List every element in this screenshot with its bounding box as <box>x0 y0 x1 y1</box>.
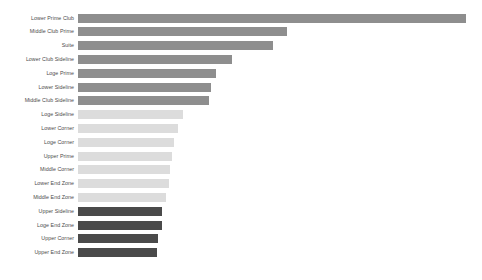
bar <box>78 83 211 92</box>
bar <box>78 207 162 216</box>
bar-category-label: Suite <box>0 42 74 49</box>
bar-row: Upper Prime <box>0 149 482 163</box>
bar-category-label: Middle Club Sideline <box>0 97 74 104</box>
bar <box>78 27 287 36</box>
bar-category-label: Middle Club Prime <box>0 28 74 35</box>
bar-fill <box>78 138 174 147</box>
bar-row: Lower Club Sideline <box>0 52 482 66</box>
bar <box>78 110 183 119</box>
bar-row: Lower Sideline <box>0 80 482 94</box>
bar-fill <box>78 193 166 202</box>
bar-category-label: Upper Corner <box>0 235 74 242</box>
bar <box>78 152 172 161</box>
bar-row: Upper Sideline <box>0 204 482 218</box>
bar <box>78 69 216 78</box>
bar-row: Suite <box>0 39 482 53</box>
bar-category-label: Lower Sideline <box>0 84 74 91</box>
bar-row: Upper Corner <box>0 232 482 246</box>
bar-fill <box>78 152 172 161</box>
bar-fill <box>78 110 183 119</box>
bar-fill <box>78 55 232 64</box>
bar-fill <box>78 69 216 78</box>
bar-fill <box>78 248 157 257</box>
bar-fill <box>78 207 162 216</box>
bar-category-label: Upper End Zone <box>0 249 74 256</box>
bar-row: Upper End Zone <box>0 246 482 260</box>
bar-fill <box>78 179 169 188</box>
bar-category-label: Upper Sideline <box>0 208 74 215</box>
bar-category-label: Loge Prime <box>0 70 74 77</box>
bar-category-label: Lower Club Sideline <box>0 56 74 63</box>
bar-row: Middle Club Prime <box>0 25 482 39</box>
bar-row: Loge Corner <box>0 135 482 149</box>
bar-fill <box>78 96 209 105</box>
bar <box>78 193 166 202</box>
bar-category-label: Middle Corner <box>0 166 74 173</box>
bar-fill <box>78 27 287 36</box>
bar <box>78 138 174 147</box>
bar <box>78 124 178 133</box>
bar-category-label: Middle End Zone <box>0 194 74 201</box>
bar-category-label: Lower End Zone <box>0 180 74 187</box>
bar <box>78 221 162 230</box>
bar-fill <box>78 83 211 92</box>
bar-category-label: Loge Corner <box>0 139 74 146</box>
bar-fill <box>78 165 170 174</box>
bar-category-label: Loge End Zone <box>0 222 74 229</box>
chart-plot-area: Lower Prime ClubMiddle Club PrimeSuiteLo… <box>0 0 482 280</box>
bar-category-label: Upper Prime <box>0 153 74 160</box>
bar <box>78 55 232 64</box>
bar-category-label: Lower Prime Club <box>0 15 74 22</box>
bar-category-label: Lower Corner <box>0 125 74 132</box>
bar-row: Middle End Zone <box>0 190 482 204</box>
bar-row: Loge End Zone <box>0 218 482 232</box>
bar <box>78 165 170 174</box>
bar <box>78 96 209 105</box>
bar <box>78 14 466 23</box>
bar-row: Loge Prime <box>0 66 482 80</box>
bar-row: Lower End Zone <box>0 177 482 191</box>
bar-row: Middle Club Sideline <box>0 94 482 108</box>
bar <box>78 248 157 257</box>
bar <box>78 179 169 188</box>
bar-row: Lower Corner <box>0 121 482 135</box>
bar-row: Lower Prime Club <box>0 11 482 25</box>
bar-row: Loge Sideline <box>0 108 482 122</box>
bar-fill <box>78 221 162 230</box>
bar-category-label: Loge Sideline <box>0 111 74 118</box>
bar-fill <box>78 41 273 50</box>
bar-fill <box>78 234 158 243</box>
bar <box>78 234 158 243</box>
bar-fill <box>78 124 178 133</box>
bar-row: Middle Corner <box>0 163 482 177</box>
bar <box>78 41 273 50</box>
horizontal-bar-chart: Lower Prime ClubMiddle Club PrimeSuiteLo… <box>0 0 482 280</box>
bar-fill <box>78 14 466 23</box>
